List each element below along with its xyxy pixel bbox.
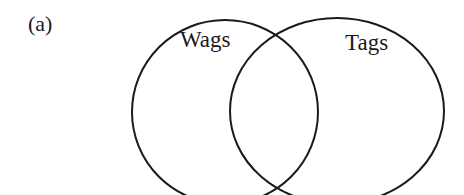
venn-diagram <box>0 0 464 195</box>
tags-set-circle <box>230 18 444 195</box>
wags-set-label: Wags <box>180 28 231 51</box>
tags-set-label: Tags <box>345 31 388 54</box>
panel-label: (a) <box>28 13 52 35</box>
